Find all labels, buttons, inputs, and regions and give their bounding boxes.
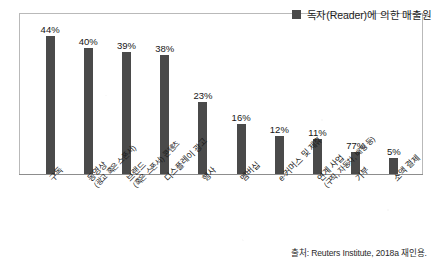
bar-slot: 12%: [260, 17, 298, 174]
bar: [46, 36, 55, 174]
bar-value-label: 40%: [79, 37, 98, 47]
bar-value-label: 16%: [232, 113, 251, 123]
bar-value-label: 38%: [155, 44, 174, 54]
bar-slot: 16%: [222, 17, 260, 174]
bar-value-label: 44%: [41, 25, 60, 35]
bar-slot: 44%: [31, 17, 69, 174]
bar-slot: 5%: [375, 17, 413, 174]
bar-value-label: 39%: [117, 41, 136, 51]
source-note: 출처: Reuters Institute, 2018a 재인용.: [291, 246, 427, 258]
bar-slot: 40%: [69, 17, 107, 174]
bar-value-label: 5%: [387, 147, 401, 157]
bar-value-label: 23%: [193, 91, 212, 101]
bar-value-label: 12%: [270, 125, 289, 135]
bar: [237, 124, 246, 174]
bar: [84, 48, 93, 174]
